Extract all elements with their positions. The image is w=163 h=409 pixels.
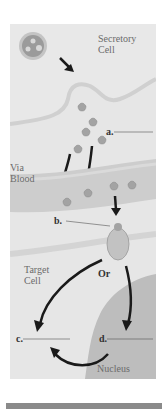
- receptor-icon: [107, 228, 129, 260]
- blank-d-label: d.: [99, 333, 107, 344]
- blank-a-label: a.: [106, 126, 114, 137]
- footer-divider: [6, 403, 162, 409]
- or-label: Or: [98, 268, 110, 279]
- blank-b-label: b.: [54, 215, 62, 226]
- secretory-vesicle-icon: [19, 32, 47, 60]
- label-line: Blood: [10, 173, 34, 184]
- label-line: Target: [24, 264, 49, 275]
- diagram-panel: Secretory Cell Via Blood Target Cell Or …: [10, 24, 156, 379]
- hormone-molecules: [74, 103, 106, 153]
- nucleus-label: Nucleus: [97, 363, 130, 374]
- label-line: Cell: [98, 44, 136, 55]
- hormone-pathway-illustration: [10, 24, 156, 379]
- label-line: Secretory: [98, 33, 136, 44]
- via-blood-label: Via Blood: [10, 162, 34, 184]
- target-membrane: [10, 234, 156, 254]
- blank-c-label: c.: [16, 333, 23, 344]
- label-line: Cell: [24, 275, 49, 286]
- target-cell-label: Target Cell: [24, 264, 49, 286]
- secretory-cell-label: Secretory Cell: [98, 33, 136, 55]
- label-line: Via: [10, 162, 34, 173]
